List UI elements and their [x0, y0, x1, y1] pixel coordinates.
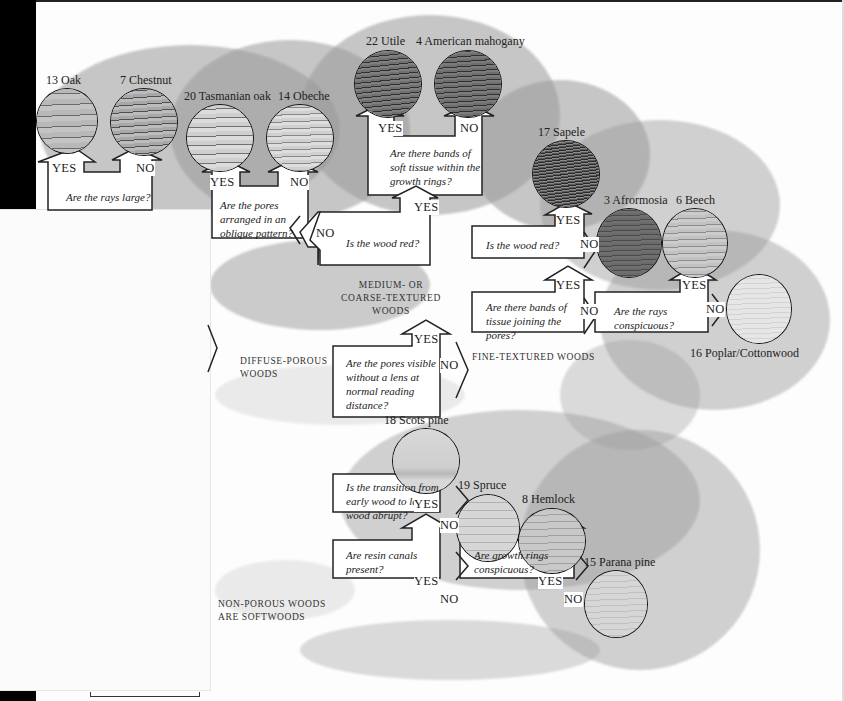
- tasmanian-oak-grain: [187, 105, 253, 171]
- category-diffuse-porous: DIFFUSE-POROUS WOODS: [240, 355, 330, 381]
- wood-label-beech: 6 Beech: [676, 193, 715, 208]
- answer-no-bands-joining-pores: NO: [580, 304, 599, 319]
- wood-label-afrormosia: 3 Afrormosia: [604, 193, 668, 208]
- answer-no-wood-red-medium: NO: [316, 226, 335, 241]
- answer-no-pores-oblique: NO: [290, 175, 309, 190]
- answer-yes-bands-joining-pores: YES: [556, 278, 581, 293]
- question-pores-visible: Are the pores visible without a lens at …: [346, 356, 438, 412]
- wood-label-poplar-cottonwood: 16 Poplar/Cottonwood: [690, 346, 799, 361]
- wood-sample-tasmanian-oak: [186, 104, 254, 172]
- wood-label-oak: 13 Oak: [46, 73, 81, 88]
- obeche-grain: [267, 105, 333, 171]
- question-bands-soft-tissue: Are there bands of soft tissue within th…: [390, 146, 482, 188]
- answer-no-resin-canals: NO: [440, 592, 459, 607]
- category-medium-coarse: MEDIUM- OR COARSE-TEXTURED WOODS: [336, 279, 446, 318]
- wood-sample-poplar-cottonwood: [726, 274, 792, 344]
- question-resin-canals: Are resin canals present?: [346, 548, 426, 576]
- wood-label-chestnut: 7 Chestnut: [120, 73, 172, 88]
- answer-yes-resin-canals: YES: [414, 574, 439, 589]
- afrormosia-grain: [597, 209, 661, 277]
- answer-no-rays-conspicuous: NO: [706, 302, 725, 317]
- answer-yes-pores-visible: YES: [414, 332, 439, 347]
- answer-no-rays-large: NO: [136, 161, 155, 176]
- wood-sample-american-mahogany: [434, 50, 502, 118]
- wood-label-utile: 22 Utile: [366, 34, 405, 49]
- wood-sample-chestnut: [110, 88, 178, 156]
- question-wood-red-fine: Is the wood red?: [486, 238, 566, 252]
- answer-yes-pores-oblique: YES: [210, 175, 235, 190]
- answer-yes-wood-red-fine: YES: [556, 213, 581, 228]
- answer-no-transition-abrupt: NO: [440, 518, 459, 533]
- wood-sample-afrormosia: [596, 208, 662, 278]
- wood-label-obeche: 14 Obeche: [278, 89, 330, 104]
- wood-label-spruce: 19 Spruce: [458, 478, 506, 493]
- wood-label-scots-pine: 18 Scots pine: [384, 413, 449, 428]
- wood-label-american-mahogany: 4 American mahogany: [416, 34, 525, 49]
- poplar-cottonwood-grain: [727, 275, 791, 343]
- wood-sample-oak: [36, 88, 98, 154]
- category-fine: FINE-TEXTURED WOODS: [472, 351, 595, 364]
- chestnut-grain: [111, 89, 177, 155]
- utile-grain: [355, 51, 421, 117]
- answer-yes-growth-rings: YES: [538, 574, 563, 589]
- wood-sample-sapele: [532, 140, 600, 208]
- answer-yes-rays-large: YES: [52, 161, 77, 176]
- answer-yes-wood-red-medium: YES: [414, 200, 439, 215]
- question-bands-joining-pores: Are there bands of tissue joining the po…: [486, 300, 576, 342]
- answer-no-bands-soft-tissue: NO: [460, 121, 479, 136]
- answer-yes-rays-conspicuous: YES: [682, 278, 707, 293]
- category-non-porous: NON-POROUS WOODS ARE SOFTWOODS: [218, 598, 330, 624]
- wood-label-hemlock: 8 Hemlock: [522, 492, 575, 507]
- question-growth-rings: Are growth rings conspicuous?: [474, 548, 564, 576]
- wood-sample-utile: [354, 50, 422, 118]
- question-rays-large: Are the rays large?: [66, 190, 166, 204]
- wood-sample-obeche: [266, 104, 334, 172]
- wood-label-parana-pine: 15 Parana pine: [584, 555, 655, 570]
- answer-no-growth-rings: NO: [564, 592, 583, 607]
- oak-grain: [37, 89, 97, 153]
- answer-no-pores-visible: NO: [440, 358, 459, 373]
- wood-sample-parana-pine: [584, 570, 648, 638]
- question-pores-oblique: Are the pores arranged in an oblique pat…: [220, 198, 306, 240]
- answer-yes-bands-soft-tissue: YES: [378, 121, 403, 136]
- question-wood-red-medium: Is the wood red?: [346, 236, 426, 250]
- wood-label-tasmanian-oak: 20 Tasmanian oak: [184, 89, 271, 104]
- answer-no-wood-red-fine: NO: [580, 237, 599, 252]
- wood-sample-beech: [662, 208, 728, 278]
- beech-grain: [663, 209, 727, 277]
- american-mahogany-grain: [435, 51, 501, 117]
- answer-yes-transition-abrupt: YES: [414, 497, 439, 512]
- question-rays-conspicuous: Are the rays conspicuous?: [614, 304, 704, 332]
- parana-pine-grain: [585, 571, 647, 637]
- sapele-grain: [533, 141, 599, 207]
- wood-label-sapele: 17 Sapele: [538, 125, 585, 140]
